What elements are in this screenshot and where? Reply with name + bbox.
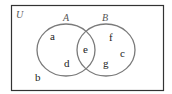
venn-diagram: U A B a d e f c g b — [0, 0, 172, 94]
element-d: d — [64, 57, 70, 69]
set-b-label: B — [102, 12, 108, 23]
element-b: b — [35, 71, 41, 83]
element-c: c — [120, 47, 125, 59]
element-g: g — [103, 57, 109, 69]
set-a-label: A — [62, 12, 70, 23]
element-e: e — [83, 43, 88, 55]
element-a: a — [50, 30, 55, 42]
universe-label: U — [16, 9, 24, 20]
element-f: f — [109, 31, 113, 43]
